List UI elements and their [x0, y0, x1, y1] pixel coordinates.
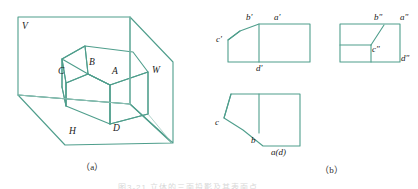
label-d-prime: d' — [256, 64, 262, 73]
label-c-lower: c — [215, 118, 219, 127]
label-c-prime: c' — [216, 35, 222, 44]
label-vertex-a: A — [112, 67, 118, 77]
watermark-caption: 图3-21 立体的三面投影及其表面点 — [118, 181, 258, 189]
top-view-outline — [224, 94, 300, 146]
solid-left-top-face — [62, 46, 88, 83]
label-c-double-prime: c" — [372, 45, 380, 54]
caption-part-a: （a） — [81, 160, 104, 173]
label-b-lower: b — [251, 136, 256, 145]
label-vertex-c: C — [58, 67, 64, 77]
top-view-slant-left — [224, 94, 231, 118]
label-a-prime: a' — [274, 13, 280, 22]
label-b-prime: b' — [246, 13, 252, 22]
solid-right-front-face — [110, 72, 148, 124]
edge-b-junction — [88, 74, 110, 85]
label-d-double-prime: d" — [401, 54, 409, 63]
front-view-outline — [228, 24, 310, 62]
side-view-slant-edge — [371, 25, 384, 45]
label-a-double-prime: a" — [400, 13, 408, 22]
part-a-drawing — [0, 0, 418, 189]
label-vertex-b: B — [89, 58, 95, 68]
h-plane-outline — [18, 95, 172, 145]
h-fold-line — [18, 95, 130, 104]
caption-part-b: （b） — [320, 163, 343, 176]
h-plane-corner-line — [148, 114, 172, 143]
figure-root: V W H C B A D （a） b' a' c' d' b" a" c" d… — [0, 0, 418, 189]
label-b-double-prime: b" — [374, 13, 382, 22]
front-view-slant-edge — [228, 31, 240, 40]
label-ad-lower: a(d) — [271, 148, 286, 157]
label-v-plane: V — [22, 22, 28, 32]
edge-left-bottom — [62, 87, 66, 106]
label-w-plane: W — [152, 66, 160, 76]
v-plane-outline — [18, 17, 130, 104]
label-h-plane: H — [69, 127, 76, 137]
side-view-outline — [340, 24, 400, 62]
edge-top-ridge — [85, 46, 88, 74]
label-vertex-d: D — [113, 124, 120, 134]
